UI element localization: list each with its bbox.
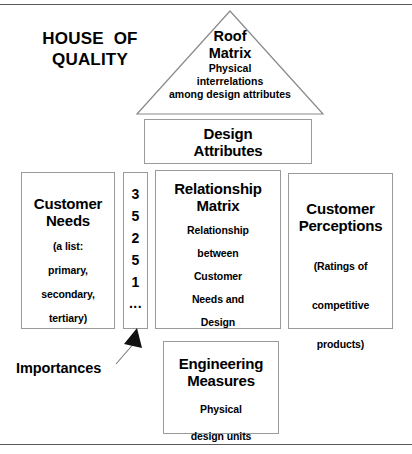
- design-attributes-heading-line-2: Attributes: [194, 142, 263, 159]
- relationship-matrix-body-line-4: Needs and: [192, 293, 244, 306]
- importance-value: 1: [132, 271, 140, 293]
- roof-matrix-heading-line-2: Matrix: [134, 45, 326, 62]
- roof-matrix-body-line-1: Physical: [134, 62, 326, 75]
- customer-needs-body-line-3: secondary,: [41, 288, 95, 301]
- importances-arrow-icon: [110, 326, 160, 374]
- relationship-matrix-body-line-2: between: [197, 247, 238, 260]
- customer-perceptions-heading-line-2: Perceptions: [299, 217, 383, 234]
- relationship-matrix-body-line-1: Relationship: [187, 224, 249, 237]
- relationship-matrix-box: Relationship Matrix Relationship between…: [155, 170, 281, 329]
- customer-needs-box: Customer Needs (a list: primary, seconda…: [21, 172, 115, 329]
- customer-needs-heading-line-1: Customer: [34, 195, 102, 212]
- roof-matrix-body-line-3: among design attributes: [134, 88, 326, 101]
- customer-perceptions-box: Customer Perceptions (Ratings of competi…: [288, 173, 393, 329]
- design-attributes-box: Design Attributes: [144, 119, 312, 164]
- top-divider-rule: [0, 4, 412, 5]
- importance-value: 2: [132, 227, 140, 249]
- customer-perceptions-body-line-1: (Ratings of: [314, 260, 368, 273]
- engineering-measures-heading-line-2: Measures: [187, 372, 255, 389]
- importance-value: 3: [132, 183, 140, 205]
- design-attributes-heading-line-1: Design: [204, 125, 253, 142]
- roof-matrix-body-line-2: interrelations: [134, 75, 326, 88]
- relationship-matrix-heading-line-2: Matrix: [197, 197, 240, 214]
- relationship-matrix-body-line-3: Customer: [194, 270, 242, 283]
- importance-value: 5: [132, 205, 140, 227]
- customer-needs-body-line-1: (a list:: [53, 240, 83, 253]
- relationship-matrix-heading-line-1: Relationship: [174, 180, 262, 197]
- engineering-measures-heading-line-1: Engineering: [179, 355, 263, 372]
- customer-needs-body-line-4: tertiary): [49, 312, 87, 325]
- importance-value: 5: [132, 249, 140, 271]
- roof-matrix-label: Roof Matrix Physical interrelations amon…: [134, 28, 326, 101]
- bottom-divider-rule: [0, 444, 412, 445]
- customer-needs-body-line-2: primary,: [48, 264, 88, 277]
- roof-matrix-heading-line-1: Roof: [134, 28, 326, 45]
- importance-ratings-column: 3 5 2 5 1 ...: [123, 172, 148, 329]
- customer-needs-heading-line-2: Needs: [46, 212, 90, 229]
- engineering-measures-body-line-1: Physical: [200, 403, 242, 416]
- relationship-matrix-body-line-5: Design: [201, 316, 235, 329]
- importance-value-ellipsis: ...: [129, 293, 142, 313]
- customer-perceptions-body-line-3: products): [317, 338, 365, 351]
- customer-perceptions-heading-line-1: Customer: [306, 200, 374, 217]
- customer-perceptions-body-line-2: competitive: [312, 299, 369, 312]
- importances-annotation-label: Importances: [16, 360, 101, 377]
- engineering-measures-box: Engineering Measures Physical design uni…: [163, 341, 279, 434]
- engineering-measures-body-line-2: design units: [191, 430, 252, 443]
- house-of-quality-diagram: HOUSE OF QUALITY Roof Matrix Physical in…: [0, 0, 412, 454]
